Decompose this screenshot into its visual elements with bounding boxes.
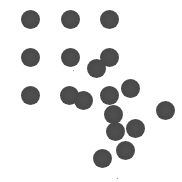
dot-pattern-canvas <box>0 0 182 182</box>
dot <box>106 122 125 141</box>
dot <box>121 79 140 98</box>
dot <box>21 10 40 29</box>
dot <box>156 101 175 120</box>
dot <box>116 141 135 160</box>
dot <box>100 10 119 29</box>
dot <box>61 10 80 29</box>
dot <box>61 48 80 67</box>
noise-speck <box>117 178 118 179</box>
dot <box>100 86 119 105</box>
dot <box>74 91 93 110</box>
dot <box>93 149 112 168</box>
dot <box>126 119 145 138</box>
dot <box>21 86 40 105</box>
dot <box>104 105 123 124</box>
noise-speck <box>73 70 74 71</box>
dot <box>21 48 40 67</box>
dot <box>87 59 106 78</box>
